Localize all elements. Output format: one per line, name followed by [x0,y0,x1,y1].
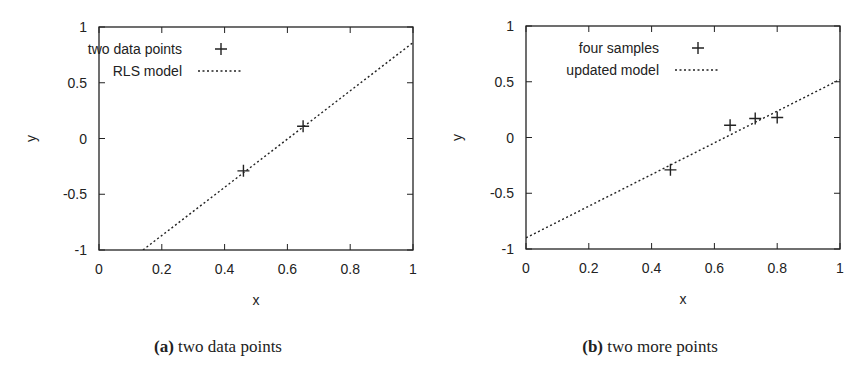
x-axis-label: x [680,291,687,307]
legend-label: RLS model [113,63,182,79]
y-tick-label: 1 [79,19,87,35]
plot-frame [99,27,413,250]
y-tick-label: 0 [506,130,514,146]
caption-a-text: two data points [178,337,282,356]
data-point-plus-icon [724,119,736,131]
x-tick-label: 0.2 [579,260,599,276]
y-tick-label: 0.5 [68,75,88,91]
y-tick-label: 1 [506,18,514,34]
data-point-plus-icon [664,164,676,176]
legend-label: updated model [566,62,659,78]
legend-plus-icon [215,43,227,55]
y-tick-label: -0.5 [490,185,514,201]
y-axis-label: y [449,134,465,141]
x-tick-label: 0 [522,260,530,276]
x-tick-label: 0.8 [340,261,360,277]
data-point-plus-icon [771,111,783,123]
x-tick-label: 0.8 [767,260,787,276]
caption-b-tag: (b) [582,337,603,356]
x-tick-label: 0.6 [278,261,298,277]
caption-b: (b) two more points [582,337,718,357]
x-tick-label: 0 [95,261,103,277]
caption-b-text: two more points [607,337,718,356]
data-point-plus-icon [749,113,761,125]
x-tick-label: 0.4 [215,261,235,277]
legend-label: four samples [579,40,659,56]
y-tick-label: -1 [502,241,515,257]
x-tick-label: 0.4 [642,260,662,276]
legend-plus-icon [692,42,704,54]
y-tick-label: 0 [79,131,87,147]
data-point-plus-icon [297,120,309,132]
y-tick-label: -1 [75,242,88,258]
x-axis-label: x [253,292,260,308]
x-tick-label: 1 [409,261,417,277]
model-line [526,80,840,238]
data-point-plus-icon [237,165,249,177]
x-tick-label: 0.2 [152,261,172,277]
chart-panel-b: 00.20.40.60.8110.50-0.5-1xyfour samplesu… [449,18,844,307]
model-line [143,43,413,250]
caption-a-tag: (a) [154,337,174,356]
y-tick-label: -0.5 [63,186,87,202]
x-tick-label: 0.6 [705,260,725,276]
legend-label: two data points [88,41,182,57]
chart-panel-a: 00.20.40.60.8110.50-0.5-1xytwo data poin… [23,19,417,308]
figure: 00.20.40.60.8110.50-0.5-1xytwo data poin… [0,0,866,379]
y-tick-label: 0.5 [495,74,515,90]
x-tick-label: 1 [836,260,844,276]
plot-frame [526,26,840,249]
y-axis-label: y [23,135,39,142]
caption-a: (a) two data points [154,337,282,357]
